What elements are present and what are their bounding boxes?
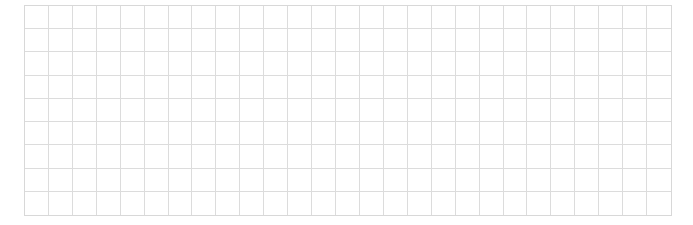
grid-cell [97, 122, 121, 145]
grid-cell [480, 192, 504, 215]
grid-cell [192, 122, 216, 145]
grid-cell [456, 192, 480, 215]
grid-cell [73, 122, 97, 145]
grid-cell [25, 145, 49, 168]
grid-cell [551, 169, 575, 192]
grid-cell [97, 6, 121, 29]
grid-cell [504, 52, 528, 75]
grid-cell [336, 99, 360, 122]
grid-cell [623, 76, 647, 99]
grid-cell [240, 6, 264, 29]
grid-cell [288, 192, 312, 215]
grid-cell [169, 145, 193, 168]
grid-cell [264, 145, 288, 168]
grid-cell [264, 29, 288, 52]
grid-cell [599, 29, 623, 52]
grid-cell [216, 145, 240, 168]
grid-cell [49, 29, 73, 52]
grid-cell [49, 99, 73, 122]
grid-cell [192, 76, 216, 99]
grid-cell [551, 29, 575, 52]
grid-cell [336, 6, 360, 29]
grid-cell [312, 29, 336, 52]
grid-cell [49, 122, 73, 145]
grid-cell [288, 145, 312, 168]
grid-cell [216, 99, 240, 122]
grid-cell [169, 76, 193, 99]
grid-cell [647, 169, 671, 192]
grid-cell [575, 145, 599, 168]
grid-cell [288, 76, 312, 99]
grid-cell [599, 52, 623, 75]
grid-cell [73, 29, 97, 52]
grid-cell [264, 169, 288, 192]
grid-cell [145, 29, 169, 52]
grid-cell [360, 29, 384, 52]
grid-cell [360, 145, 384, 168]
grid-cell [599, 169, 623, 192]
grid-cell [599, 99, 623, 122]
grid-cell [192, 169, 216, 192]
grid-cell [623, 192, 647, 215]
grid-cell [169, 169, 193, 192]
grid-cell [408, 192, 432, 215]
grid-cell [145, 52, 169, 75]
grid-cell [121, 29, 145, 52]
grid-cell [504, 169, 528, 192]
grid-cell [647, 29, 671, 52]
grid-cell [288, 29, 312, 52]
grid-cell [240, 76, 264, 99]
grid-cell [145, 6, 169, 29]
grid-cell [623, 99, 647, 122]
grid-cell [312, 76, 336, 99]
grid-cell [527, 6, 551, 29]
grid-cell [408, 6, 432, 29]
grid-cell [360, 52, 384, 75]
grid-cell [192, 99, 216, 122]
grid-cell [575, 99, 599, 122]
grid-cell [169, 122, 193, 145]
grid-cell [216, 122, 240, 145]
grid-cell [551, 145, 575, 168]
grid-cell [121, 6, 145, 29]
grid-cell [480, 6, 504, 29]
grid-cell [480, 169, 504, 192]
grid-cell [240, 29, 264, 52]
grid-cell [49, 145, 73, 168]
grid-cell [527, 99, 551, 122]
grid-cell [240, 169, 264, 192]
grid-cell [169, 29, 193, 52]
grid-cell [73, 76, 97, 99]
grid-cell [575, 169, 599, 192]
grid-cell [25, 6, 49, 29]
grid-cell [121, 145, 145, 168]
grid-cell [384, 52, 408, 75]
grid-cell [73, 99, 97, 122]
grid-cell [360, 99, 384, 122]
grid-cell [73, 6, 97, 29]
grid-cell [49, 169, 73, 192]
grid-cell [192, 6, 216, 29]
grid-cell [288, 6, 312, 29]
grid-cell [456, 6, 480, 29]
grid-cell [264, 52, 288, 75]
grid-cell [336, 145, 360, 168]
grid-cell [432, 99, 456, 122]
grid-cell [432, 169, 456, 192]
blank-grid [24, 5, 672, 216]
grid-cell [551, 76, 575, 99]
grid-cell [25, 122, 49, 145]
grid-cell [360, 122, 384, 145]
grid-cell [216, 52, 240, 75]
grid-cell [145, 192, 169, 215]
grid-cell [647, 122, 671, 145]
grid-cell [336, 29, 360, 52]
grid-cell [504, 6, 528, 29]
grid-cell [192, 145, 216, 168]
grid-cell [551, 122, 575, 145]
grid-cell [49, 52, 73, 75]
grid-cell [360, 6, 384, 29]
grid-cell [527, 192, 551, 215]
grid-cell [121, 122, 145, 145]
grid-cell [647, 192, 671, 215]
